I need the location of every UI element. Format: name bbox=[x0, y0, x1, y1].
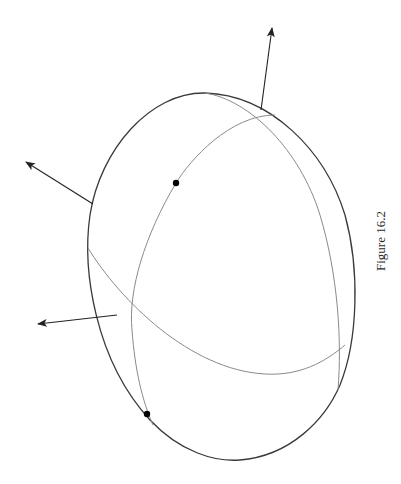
normal-arrow-lower-left bbox=[38, 315, 117, 324]
outer-outline bbox=[88, 93, 355, 460]
meridian-curve bbox=[131, 115, 275, 425]
inner-rim bbox=[205, 93, 339, 390]
ellipsoid-figure bbox=[0, 0, 401, 484]
figure-caption: Figure 16.2 bbox=[373, 211, 389, 271]
point-upper bbox=[173, 180, 179, 186]
point-lower bbox=[144, 411, 150, 417]
normal-arrow-upper-left bbox=[26, 162, 93, 204]
normal-arrow-top bbox=[261, 28, 272, 110]
equator-curve bbox=[88, 248, 345, 374]
